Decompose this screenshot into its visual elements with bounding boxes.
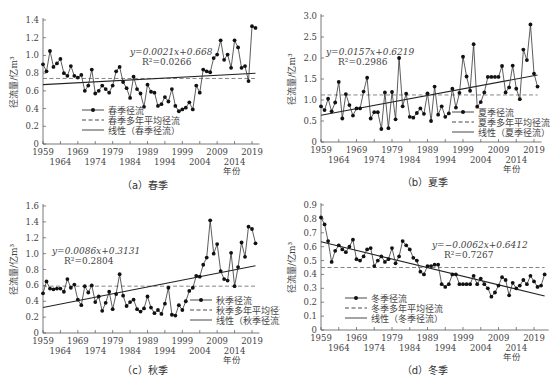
data-point	[532, 279, 536, 283]
data-point	[326, 239, 330, 243]
chart-panel-winter: 00.10.20.30.40.50.60.70.80.9195919691979…	[0, 0, 555, 384]
y-tick-label: 0.8	[303, 214, 317, 224]
data-point	[461, 282, 465, 286]
data-point	[383, 260, 387, 264]
x-axis-label: 年份	[503, 352, 521, 362]
trend-equation: y=−0.0062x+0.6412	[431, 240, 528, 250]
data-point	[475, 282, 479, 286]
data-point	[394, 261, 398, 265]
data-point	[433, 263, 437, 267]
x-tick-label: 1979	[381, 333, 403, 343]
data-point	[355, 257, 359, 261]
data-point	[404, 243, 408, 247]
legend: 冬季径流冬季多年平均径流线性（冬季径流）	[345, 293, 443, 324]
data-point	[490, 295, 494, 299]
data-point	[504, 278, 508, 282]
data-point	[365, 248, 369, 252]
data-point	[518, 284, 522, 288]
y-tick-label: 0.6	[303, 242, 317, 252]
x-tick-label: 1999	[452, 333, 474, 343]
data-point	[330, 260, 334, 264]
y-tick-label: 0.9	[303, 200, 317, 210]
data-point	[500, 275, 504, 279]
data-point	[539, 284, 543, 288]
x-tick-label: 2019	[523, 333, 545, 343]
data-point	[479, 277, 483, 281]
data-point	[465, 282, 469, 286]
data-point	[411, 256, 415, 260]
data-point	[358, 259, 362, 263]
data-point	[372, 264, 376, 268]
data-point	[426, 264, 430, 268]
y-axis-label: 径流量/亿m³	[286, 242, 297, 294]
data-point	[348, 245, 352, 249]
data-point	[390, 246, 394, 250]
caption-winter: （d）冬季	[365, 362, 485, 377]
data-point	[450, 273, 454, 277]
x-tick-label: 2009	[488, 333, 510, 343]
data-point	[397, 254, 401, 258]
x-tick-label: 2004	[470, 343, 492, 353]
y-tick-label: 0.5	[303, 256, 317, 266]
data-point	[514, 286, 518, 290]
data-point	[362, 254, 366, 258]
data-point	[521, 278, 525, 282]
data-point	[443, 285, 447, 289]
legend-label: 线性（冬季径流）	[371, 313, 443, 324]
data-point	[482, 282, 486, 286]
y-tick-label: 0.1	[303, 311, 317, 321]
data-point	[337, 243, 341, 247]
legend-label: 冬季多年平均径流	[371, 303, 443, 314]
data-point	[525, 282, 529, 286]
runoff-series-line	[321, 218, 545, 297]
data-point	[536, 285, 540, 289]
data-point	[323, 223, 327, 227]
data-point	[422, 273, 426, 277]
data-point	[379, 254, 383, 258]
data-point	[543, 273, 547, 277]
x-tick-label: 1994	[434, 343, 456, 353]
y-tick-label: 0.2	[303, 297, 317, 307]
data-point	[369, 246, 373, 250]
data-point	[351, 238, 355, 242]
data-point	[319, 216, 323, 220]
chart-winter: 00.10.20.30.40.50.60.70.80.9195919691979…	[0, 0, 555, 384]
x-tick-label: 1989	[417, 333, 439, 343]
y-tick-label: 0.4	[303, 269, 317, 279]
data-point	[408, 248, 412, 252]
data-point	[511, 281, 515, 285]
x-tick-label: 1984	[399, 343, 421, 353]
data-point	[387, 257, 391, 261]
data-point	[344, 250, 348, 254]
data-point	[486, 286, 490, 290]
data-point	[376, 259, 380, 263]
data-point	[497, 284, 501, 288]
x-tick-label: 1959	[310, 333, 332, 343]
data-point	[333, 249, 337, 253]
x-tick-label: 1964	[328, 343, 350, 353]
data-point	[419, 270, 423, 274]
data-point	[440, 282, 444, 286]
data-point	[340, 248, 344, 252]
data-point	[493, 291, 497, 295]
data-point	[507, 293, 511, 297]
y-tick-label: 0.7	[303, 228, 317, 238]
r-squared: R²=0.7267	[444, 250, 494, 260]
data-point	[458, 282, 462, 286]
legend-label: 冬季径流	[371, 293, 407, 304]
data-point	[529, 274, 533, 278]
data-point	[401, 239, 405, 243]
data-point	[447, 282, 451, 286]
x-tick-label: 1974	[363, 343, 385, 353]
x-tick-label: 1969	[346, 333, 368, 343]
y-tick-label: 0.3	[303, 283, 317, 293]
data-point	[454, 273, 458, 277]
data-point	[436, 263, 440, 267]
data-point	[429, 264, 433, 268]
data-point	[415, 259, 419, 263]
data-point	[468, 282, 472, 286]
data-point	[472, 274, 476, 278]
